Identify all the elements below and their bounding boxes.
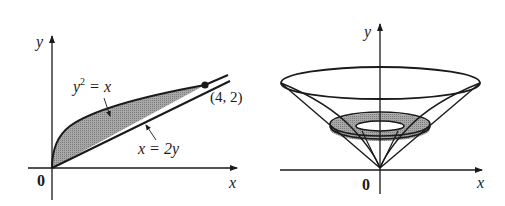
- left-figure: y x 0 (4, 2) y2 = x x = 2y: [28, 33, 243, 200]
- x-axis-label: x: [476, 174, 484, 191]
- origin-label: 0: [362, 176, 370, 193]
- x-axis-label: x: [228, 174, 236, 191]
- parabola-label: y2 = x: [71, 76, 111, 96]
- line-label: x = 2y: [137, 140, 180, 158]
- diagram-canvas: y x 0 (4, 2) y2 = x x = 2y y x 0: [0, 0, 505, 206]
- point-label: (4, 2): [210, 89, 243, 106]
- label-pointer-line: [146, 125, 156, 140]
- origin-label: 0: [37, 172, 45, 189]
- intersection-point: [201, 81, 208, 88]
- right-figure: y x 0: [280, 23, 484, 194]
- y-axis-label: y: [362, 23, 372, 41]
- y-axis-label: y: [34, 33, 44, 51]
- shaded-region: [52, 85, 205, 168]
